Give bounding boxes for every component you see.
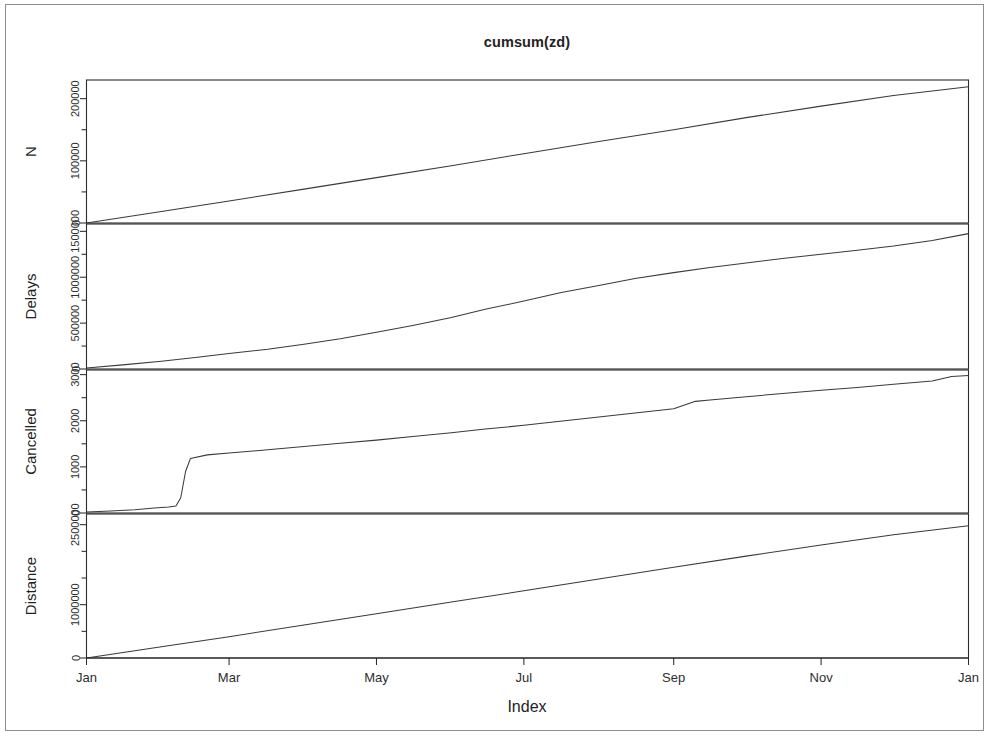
y-tick-label: 1000000 [70, 256, 82, 299]
panel-axis-label-n: N [22, 146, 39, 157]
x-tick-label: Jan [958, 670, 979, 685]
y-tick-label: 1500000 [70, 210, 82, 253]
panel-distance: 010000002500000Distance [22, 503, 969, 661]
panel-n: 0100000200000N [22, 80, 969, 226]
x-tick-label: Sep [662, 670, 685, 685]
figure-page: cumsum(zd) 0100000200000N050000010000001… [0, 0, 992, 748]
x-tick-label: Jul [516, 670, 533, 685]
y-tick-label: 1000000 [70, 583, 82, 626]
y-tick-label: 100000 [70, 142, 82, 179]
y-tick-label: 2000 [70, 408, 82, 432]
y-tick-label: 2500000 [70, 503, 82, 546]
multi-panel-timeseries-chart: 0100000200000N050000010000001500000Delay… [0, 0, 992, 748]
panel-frame [87, 370, 969, 513]
panel-axis-label-cancelled: Cancelled [22, 408, 39, 475]
panel-axis-label-delays: Delays [22, 274, 39, 320]
panel-axis-label-distance: Distance [22, 557, 39, 615]
x-tick-label: May [364, 670, 389, 685]
panel-delays: 050000010000001500000Delays [22, 210, 969, 372]
panel-cancelled: 0100020003000Cancelled [22, 362, 969, 516]
panel-frame [87, 514, 969, 658]
x-axis-label: Index [86, 698, 968, 716]
series-line-n [87, 87, 969, 223]
y-tick-label: 3000 [70, 362, 82, 386]
y-tick-label: 500000 [70, 305, 82, 342]
x-tick-label: Nov [810, 670, 834, 685]
series-line-delays [87, 234, 969, 368]
series-line-cancelled [87, 376, 969, 513]
x-axis: JanMarMayJulSepNovJan [76, 658, 979, 685]
scan-bottom-edge [0, 735, 992, 748]
series-line-distance [87, 526, 969, 658]
y-tick-label: 1000 [70, 455, 82, 479]
panels-group: 0100000200000N050000010000001500000Delay… [22, 80, 969, 661]
x-tick-label: Mar [218, 670, 241, 685]
panel-frame [87, 224, 969, 369]
y-tick-label: 0 [70, 655, 82, 661]
panel-frame [87, 80, 969, 223]
x-tick-label: Jan [76, 670, 97, 685]
y-tick-label: 200000 [70, 80, 82, 117]
